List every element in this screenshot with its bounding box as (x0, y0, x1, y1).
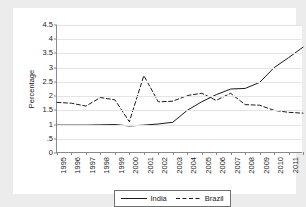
y-tick-label: 3.5 (43, 50, 53, 58)
x-tick-mark (100, 152, 101, 155)
x-tick-label: 1999 (118, 157, 126, 174)
x-tick-mark (57, 152, 58, 155)
legend-swatch-brazil (176, 195, 202, 202)
legend-entry-brazil: Brazil (176, 195, 224, 203)
gridline (57, 25, 302, 26)
x-tick-mark (303, 152, 304, 155)
x-tick-label: 2002 (161, 157, 169, 174)
x-tick-mark (144, 152, 145, 155)
x-tick-mark (216, 152, 217, 155)
legend-entry-india: India (121, 195, 166, 203)
x-tick-mark (260, 152, 261, 155)
x-tick-mark (71, 152, 72, 155)
y-tick-mark (54, 81, 57, 82)
x-tick-label: 2003 (176, 157, 184, 174)
x-tick-label: 2006 (219, 157, 227, 174)
y-tick-mark (54, 110, 57, 111)
y-tick-label: 1 (49, 121, 53, 129)
x-tick-label: 1996 (74, 157, 82, 174)
x-tick-label: 1995 (60, 157, 68, 174)
series-line-india (57, 47, 303, 126)
x-tick-label: 2010 (277, 157, 285, 174)
x-tick-label: 1998 (103, 157, 111, 174)
x-tick-label: 2008 (248, 157, 256, 174)
x-tick-mark (173, 152, 174, 155)
y-tick-mark (54, 124, 57, 125)
chart-legend: IndiaBrazil (114, 190, 231, 207)
legend-label-india: India (150, 195, 166, 203)
gridline (57, 82, 302, 83)
y-tick-label: .5 (47, 135, 53, 143)
chart-canvas: Percentage 0.511.522.533.544.5 199519961… (13, 8, 296, 194)
x-tick-label: 2000 (132, 157, 140, 174)
gridline (57, 53, 302, 54)
x-tick-mark (202, 152, 203, 155)
series-lines (57, 25, 303, 153)
gridline (57, 39, 302, 40)
x-tick-mark (231, 152, 232, 155)
x-tick-label: 2004 (190, 157, 198, 174)
y-tick-label: 2 (49, 92, 53, 100)
x-tick-label: 2007 (234, 157, 242, 174)
y-tick-mark (54, 39, 57, 40)
gridline (57, 125, 302, 126)
gridline (57, 139, 302, 140)
y-tick-mark (54, 25, 57, 26)
gridline (57, 110, 302, 111)
y-tick-mark (54, 138, 57, 139)
x-tick-mark (274, 152, 275, 155)
gridline (57, 96, 302, 97)
x-tick-label: 2011 (292, 157, 300, 173)
y-tick-mark (54, 67, 57, 68)
plot-inner: 0.511.522.533.544.5 19951996199719981999… (57, 25, 302, 152)
legend-swatch-india (121, 195, 147, 202)
x-tick-label: 1997 (89, 157, 97, 174)
gridline (57, 68, 302, 69)
x-tick-label: 2001 (147, 157, 155, 174)
x-tick-mark (289, 152, 290, 155)
x-tick-label: 2009 (263, 157, 271, 174)
y-tick-mark (54, 53, 57, 54)
chart-figure: Percentage 0.511.522.533.544.5 199519961… (0, 0, 306, 207)
x-tick-label: 2005 (205, 157, 213, 174)
y-axis-label: Percentage (28, 70, 36, 108)
legend-label-brazil: Brazil (205, 195, 224, 203)
x-tick-mark (245, 152, 246, 155)
y-tick-label: 3 (49, 64, 53, 72)
x-tick-mark (129, 152, 130, 155)
x-tick-mark (158, 152, 159, 155)
y-tick-mark (54, 96, 57, 97)
x-tick-mark (187, 152, 188, 155)
x-tick-mark (115, 152, 116, 155)
y-tick-label: 4.5 (43, 21, 53, 29)
y-tick-label: 1.5 (43, 107, 53, 115)
y-tick-label: 2.5 (43, 78, 53, 86)
y-tick-label: 0 (49, 149, 53, 157)
plot-area: 0.511.522.533.544.5 19951996199719981999… (56, 25, 302, 153)
y-tick-label: 4 (49, 35, 53, 43)
x-tick-mark (86, 152, 87, 155)
